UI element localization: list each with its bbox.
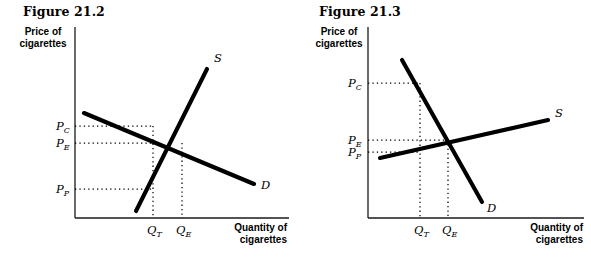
- supply-curve: [380, 120, 548, 158]
- quantity-tick-taxed: QT: [147, 223, 162, 239]
- supply-curve-label: S: [555, 106, 563, 120]
- figure-21-3: Figure 21.3 Price of cigarettes Quantity…: [296, 0, 591, 261]
- price-tick-producer: PP: [55, 182, 70, 198]
- quantity-tick-equilibrium: QE: [176, 223, 191, 239]
- price-tick-equilibrium: PE: [55, 136, 70, 152]
- figure-21-2: Figure 21.2 Price of cigarettes Quantity…: [0, 0, 295, 261]
- demand-curve-label: D: [486, 201, 496, 215]
- figures-page: Figure 21.2 Price of cigarettes Quantity…: [0, 0, 591, 261]
- plot-area: S D PC PE PP QT QE: [296, 0, 591, 261]
- quantity-tick-taxed: QT: [414, 223, 429, 239]
- plot-area: S D PC PE PP QT QE: [0, 0, 295, 261]
- quantity-tick-equilibrium: QE: [442, 223, 457, 239]
- price-tick-consumer: PC: [55, 119, 70, 135]
- demand-curve-label: D: [260, 178, 270, 192]
- demand-curve: [402, 60, 482, 202]
- supply-curve-label: S: [214, 51, 222, 65]
- price-tick-consumer: PC: [347, 76, 362, 92]
